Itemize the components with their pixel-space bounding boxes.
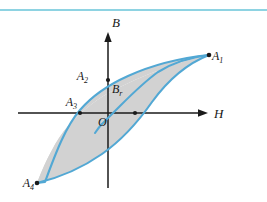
label-a2: A2 xyxy=(76,69,88,85)
label-a4-sub: 4 xyxy=(30,183,34,192)
point-marker-a1 xyxy=(207,53,212,58)
label-origin: O xyxy=(98,115,107,129)
point-marker-a2 xyxy=(106,78,110,82)
hysteresis-loop-fill-lower xyxy=(37,55,209,183)
point-marker-coercivity-positive xyxy=(133,111,137,115)
label-a2-sub: 2 xyxy=(84,76,88,85)
point-marker-a4 xyxy=(35,181,40,186)
label-a1-sub: 1 xyxy=(219,56,223,65)
figure-root: B H A1 A2 Br A3 O A4 xyxy=(0,0,267,202)
label-a3: A3 xyxy=(65,95,77,111)
svg-text:A4: A4 xyxy=(22,176,34,192)
h-axis-label: H xyxy=(213,106,224,121)
label-a4: A4 xyxy=(22,176,34,192)
label-a1: A1 xyxy=(211,49,223,65)
svg-text:A1: A1 xyxy=(211,49,223,65)
point-marker-a3 xyxy=(78,111,82,115)
svg-text:A3: A3 xyxy=(65,95,77,111)
b-axis-label: B xyxy=(112,15,120,30)
label-a3-sub: 3 xyxy=(72,102,77,111)
svg-text:A2: A2 xyxy=(76,69,88,85)
hysteresis-diagram: B H A1 A2 Br A3 O A4 xyxy=(0,0,267,202)
